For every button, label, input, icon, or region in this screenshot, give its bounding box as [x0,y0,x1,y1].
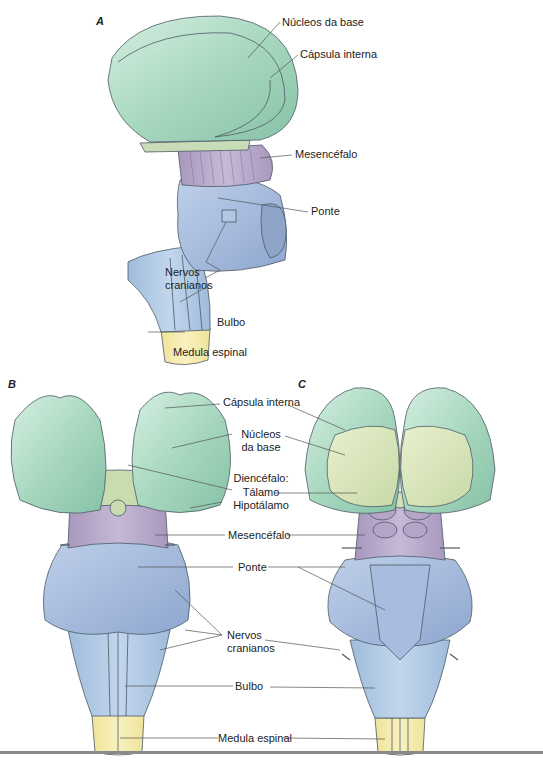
panel-c-illustration [305,388,495,755]
label-a-ponte: Ponte [311,205,340,218]
panel-b-illustration [11,392,230,755]
panel-a-illustration [108,16,298,365]
panel-label-c: C [298,378,306,390]
label-b-capsula-interna: Cápsula interna [223,396,300,409]
label-a-nucleos-da-base: Núcleos da base [282,16,364,29]
label-a-medula-espinal: Medula espinal [173,346,247,359]
label-b-medula-espinal: Medula espinal [218,732,292,745]
label-b-mesencefalo: Mesencéfalo [228,529,290,542]
label-b-bulbo: Bulbo [235,680,263,693]
label-b-ponte: Ponte [238,561,267,574]
label-b-nucleos: Núcleos [236,428,286,441]
label-b-diencefalo: Diencéfalo: [226,472,296,485]
label-a-nervos: Nervos [165,266,200,279]
panel-label-b: B [8,378,16,390]
label-a-capsula-interna: Cápsula interna [300,48,377,61]
panel-label-a: A [96,15,104,27]
label-b-hipotalamo: Hipotálamo [224,499,298,512]
label-b-talamo: Tálamo [226,486,296,499]
label-b-cranianos: cranianos [227,642,275,655]
bottom-divider [0,751,543,754]
label-a-mesencefalo: Mesencéfalo [295,148,357,161]
label-a-bulbo: Bulbo [217,316,245,329]
label-a-cranianos: cranianos [165,279,213,292]
label-b-nervos: Nervos [227,629,262,642]
label-b-da-base: da base [236,441,286,454]
